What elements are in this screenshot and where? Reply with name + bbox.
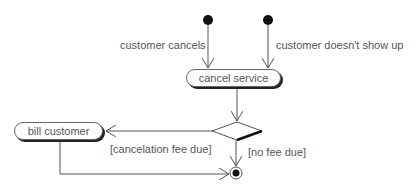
label-customer-no-show: customer doesn't show up (276, 39, 403, 51)
label-customer-cancels: customer cancels (120, 39, 206, 51)
activity-cancel-service[interactable]: cancel service (186, 69, 281, 87)
label-no-fee-due: [no fee due] (248, 146, 306, 158)
initial-node-icon (263, 15, 273, 25)
decision-diamond (212, 122, 262, 140)
diagram-canvas (0, 0, 410, 189)
activity-bill-customer[interactable]: bill customer (14, 122, 103, 140)
label-cancelation-fee-due: [cancelation fee due] (110, 143, 212, 155)
initial-node-icon (203, 15, 213, 25)
